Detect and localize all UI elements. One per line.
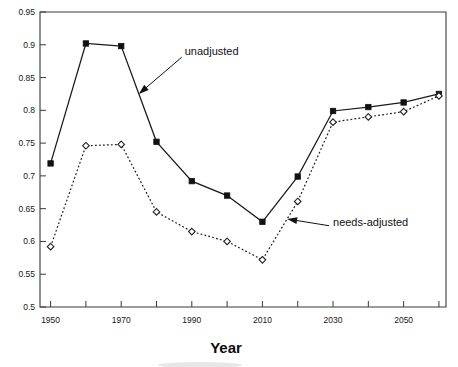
annotation-leader-needs-adjusted bbox=[294, 220, 329, 226]
x-tick-label: 2030 bbox=[324, 315, 343, 325]
marker-needs-adjusted bbox=[47, 243, 54, 250]
annotation-label-unadjusted: unadjusted bbox=[185, 45, 239, 57]
y-tick-label: 0.5 bbox=[23, 302, 35, 312]
marker-needs-adjusted bbox=[83, 142, 90, 149]
marker-needs-adjusted bbox=[259, 257, 266, 264]
y-tick-label: 0.75 bbox=[18, 138, 35, 148]
marker-needs-adjusted bbox=[224, 238, 231, 245]
x-tick-label: 2010 bbox=[253, 315, 272, 325]
marker-needs-adjusted bbox=[189, 228, 196, 235]
series-line-unadjusted bbox=[51, 43, 439, 221]
marker-unadjusted bbox=[48, 161, 53, 166]
y-tick-label: 0.8 bbox=[23, 105, 35, 115]
x-axis: 195019701990201020302050 bbox=[41, 301, 439, 325]
marker-unadjusted bbox=[154, 139, 159, 144]
x-tick-label: 1990 bbox=[182, 315, 201, 325]
marker-needs-adjusted bbox=[294, 198, 301, 205]
x-tick-label: 1950 bbox=[41, 315, 60, 325]
marker-needs-adjusted bbox=[400, 108, 407, 115]
data-markers-group bbox=[47, 41, 442, 263]
scan-artifact bbox=[158, 362, 242, 367]
line-chart: 0.50.550.60.650.70.750.80.850.90.95 1950… bbox=[0, 0, 458, 367]
y-tick-label: 0.95 bbox=[18, 7, 35, 17]
y-tick-label: 0.55 bbox=[18, 269, 35, 279]
marker-needs-adjusted bbox=[330, 119, 337, 126]
y-tick-label: 0.7 bbox=[23, 171, 35, 181]
marker-unadjusted bbox=[83, 41, 88, 46]
y-tick-label: 0.9 bbox=[23, 40, 35, 50]
y-tick-label: 0.85 bbox=[18, 73, 35, 83]
y-tick-label: 0.6 bbox=[23, 236, 35, 246]
x-tick-label: 1970 bbox=[112, 315, 131, 325]
marker-unadjusted bbox=[189, 178, 194, 183]
marker-unadjusted bbox=[295, 174, 300, 179]
annotation-label-needs-adjusted: needs-adjusted bbox=[333, 216, 408, 228]
chart-page: 0.50.550.60.650.70.750.80.850.90.95 1950… bbox=[0, 0, 458, 367]
marker-needs-adjusted bbox=[118, 141, 125, 148]
x-tick-label: 2050 bbox=[394, 315, 413, 325]
marker-unadjusted bbox=[366, 104, 371, 109]
y-tick-label: 0.65 bbox=[18, 204, 35, 214]
marker-needs-adjusted bbox=[153, 209, 160, 216]
x-axis-title: Year bbox=[210, 339, 242, 356]
series-line-needs-adjusted bbox=[51, 96, 439, 260]
plot-frame bbox=[40, 12, 446, 307]
marker-unadjusted bbox=[260, 219, 265, 224]
y-axis: 0.50.550.60.650.70.750.80.850.90.95 bbox=[18, 7, 46, 312]
marker-unadjusted bbox=[224, 193, 229, 198]
annotation-leader-unadjusted bbox=[144, 57, 182, 89]
marker-needs-adjusted bbox=[365, 114, 372, 121]
annotation-arrowhead-needs-adjusted bbox=[287, 217, 297, 224]
marker-unadjusted bbox=[330, 108, 335, 113]
marker-unadjusted bbox=[119, 43, 124, 48]
annotations-group: unadjustedneeds-adjusted bbox=[139, 45, 408, 229]
marker-unadjusted bbox=[401, 100, 406, 105]
